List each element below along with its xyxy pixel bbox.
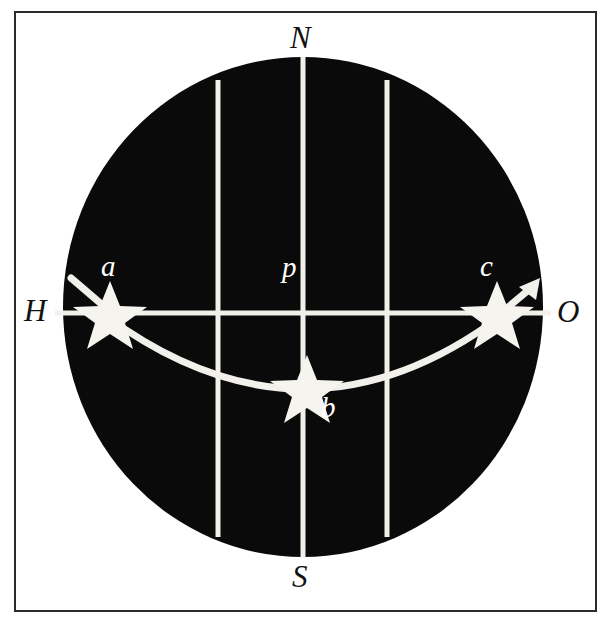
label-north: N xyxy=(290,22,311,53)
label-star-b: b xyxy=(321,393,336,422)
label-horizon-right: O xyxy=(557,296,579,327)
celestial-sphere-diagram xyxy=(0,0,613,626)
label-star-a: a xyxy=(101,252,116,281)
label-star-c: c xyxy=(480,252,493,281)
label-south: S xyxy=(292,561,308,592)
label-pole-p: p xyxy=(282,253,297,282)
label-horizon-left: H xyxy=(24,295,46,326)
figure-root: N S H O a p c b xyxy=(0,0,613,626)
